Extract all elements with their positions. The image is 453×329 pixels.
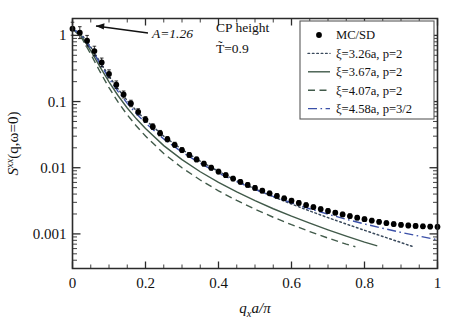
legend-label: MC/SD	[336, 28, 375, 42]
data-point-marker	[201, 161, 207, 167]
data-point-marker	[311, 204, 317, 210]
data-point-marker	[427, 224, 433, 230]
data-point-marker	[128, 101, 134, 107]
data-point-marker	[296, 200, 302, 206]
temperature-label: T̃=0.9	[216, 41, 249, 56]
data-point-marker	[281, 195, 287, 201]
x-tick-label: 0.4	[209, 275, 228, 291]
data-point-marker	[391, 221, 397, 227]
data-point-marker	[376, 219, 382, 225]
data-point-marker	[274, 193, 280, 199]
data-point-marker	[289, 198, 295, 204]
data-point-marker	[398, 222, 404, 228]
data-point-marker	[172, 142, 178, 148]
data-point-marker	[150, 124, 156, 130]
data-point-marker	[369, 218, 375, 224]
data-point-marker	[354, 215, 360, 221]
data-point-marker	[216, 169, 222, 175]
data-point-marker	[208, 165, 214, 171]
data-point-marker	[347, 213, 353, 219]
data-point-marker	[384, 220, 390, 226]
x-axis-title: qxa/π	[239, 300, 271, 319]
data-point-marker	[405, 223, 411, 229]
y-tick-label: 0.01	[40, 160, 66, 176]
data-point-marker	[238, 179, 244, 185]
data-point-marker	[106, 71, 112, 77]
x-tick-label: 0.6	[282, 275, 301, 291]
data-point-marker	[186, 152, 192, 158]
cp-height-label: CP height	[216, 20, 269, 35]
legend-label: ξ=3.67a, p=2	[336, 65, 402, 79]
data-point-marker	[332, 210, 338, 216]
data-point-marker	[121, 92, 127, 98]
data-point-marker	[179, 147, 185, 153]
data-point-marker	[77, 30, 83, 36]
data-point-marker	[362, 216, 368, 222]
y-tick-label: 1	[59, 27, 67, 43]
annotations-layer: A=1.26CP heightT̃=0.9	[96, 20, 269, 56]
data-point-marker	[318, 206, 324, 212]
data-point-marker	[157, 130, 163, 136]
data-point-marker	[245, 182, 251, 188]
data-point-marker	[135, 109, 141, 115]
legend-layer: MC/SDξ=3.26a, p=2ξ=3.67a, p=2ξ=4.07a, p=…	[300, 21, 434, 119]
data-point-marker	[99, 60, 105, 66]
data-point-marker	[267, 190, 273, 196]
data-point-marker	[84, 38, 90, 44]
x-tick-label: 0.2	[136, 275, 155, 291]
data-point-marker	[223, 172, 229, 178]
figure-container: 00.20.40.60.8110.10.010.001qxa/πSxx(q,ω=…	[0, 0, 453, 329]
data-point-marker	[413, 223, 419, 229]
data-point-marker	[165, 136, 171, 142]
data-point-marker	[113, 82, 119, 88]
y-tick-label: 0.1	[48, 94, 67, 110]
data-point-marker	[92, 48, 98, 54]
legend-label: ξ=3.26a, p=2	[336, 47, 402, 61]
x-tick-label: 1	[434, 275, 442, 291]
data-point-marker	[259, 188, 265, 194]
y-tick-label: 0.001	[33, 226, 67, 242]
structure-factor-chart: 00.20.40.60.8110.10.010.001qxa/πSxx(q,ω=…	[0, 0, 453, 329]
legend-marker-mcsd	[316, 32, 322, 38]
data-point-marker	[325, 208, 331, 214]
legend-label: ξ=4.58a, p=3/2	[336, 102, 412, 116]
data-point-marker	[420, 223, 426, 229]
legend-label: ξ=4.07a, p=2	[336, 84, 402, 98]
y-axis-title: Sxx(q,ω=0)	[4, 112, 22, 176]
x-tick-label: 0.8	[355, 275, 374, 291]
data-point-marker	[143, 117, 149, 123]
data-point-marker	[252, 185, 258, 191]
amplitude-annotation: A=1.26	[151, 26, 193, 41]
x-tick-label: 0	[69, 275, 77, 291]
data-point-marker	[230, 176, 236, 182]
data-point-marker	[194, 157, 200, 163]
data-point-marker	[340, 212, 346, 218]
data-point-marker	[303, 202, 309, 208]
annotation-arrowhead	[96, 23, 105, 29]
